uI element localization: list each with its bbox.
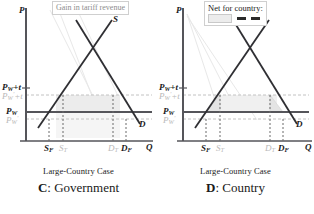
panel-d-y-axis-label: P (176, 6, 182, 15)
panel-d-xtick-dt: DT (265, 144, 275, 154)
panel-d-xtick-sf: SF (201, 144, 210, 154)
panel-d-ytick-pw-prime: PW′ (163, 115, 175, 126)
panel-c: P Q S D PW+t PW′+t PW PW′ SF ST DT DF Ga… (0, 0, 157, 165)
panel-d-ytick-pw-prime-plus-t: PW′+t (159, 91, 180, 102)
panel-c-supply-label: S (113, 15, 118, 24)
panel-c-caption-letter: C (38, 180, 47, 195)
panel-c-y-axis-label: P (19, 6, 25, 15)
panel-d-caption-label: : Country (215, 180, 264, 195)
panel-c-legend-text: Gain in tariff revenue (56, 3, 125, 12)
panel-c-xtick-df: DF (121, 144, 132, 154)
panel-c-xtick-st: ST (59, 144, 67, 154)
legend-swatch-icon (208, 14, 232, 23)
panel-c-demand-label: D (139, 120, 146, 129)
legend-minus-icon (237, 17, 246, 20)
panel-c-legend: Gain in tariff revenue (52, 1, 129, 15)
panel-d: P Q D PW+t PW′+t PW PW′ SF ST DT DF Net … (157, 0, 314, 165)
panel-d-legend-symbols (208, 14, 263, 23)
panel-c-ytick-pw-prime: PW′ (6, 115, 18, 126)
legend-minus-icon (251, 17, 260, 20)
lower-shade-region (56, 112, 120, 138)
panel-d-legend: Net for country: (204, 1, 267, 26)
panel-d-demand-label: D (296, 120, 303, 129)
panel-c-xtick-sf: SF (44, 144, 53, 154)
faint-construction-lines (50, 3, 118, 100)
panel-c-xtick-dt: DT (108, 144, 118, 154)
panel-c-caption-sub: Large-Country Case (0, 166, 157, 176)
panel-c-caption-main: C: Government (0, 180, 157, 196)
panel-d-caption-main: D: Country (157, 180, 314, 196)
net-gain-shade (213, 95, 277, 112)
panel-c-plot (0, 0, 157, 165)
panel-d-xtick-st: ST (216, 144, 224, 154)
panel-d-legend-text: Net for country: (208, 3, 263, 13)
panel-c-caption-label: : Government (47, 180, 119, 195)
tariff-revenue-shade (56, 95, 120, 112)
panel-c-ytick-pw-prime-plus-t: PW′+t (2, 91, 23, 102)
panel-d-caption-sub: Large-Country Case (157, 166, 314, 176)
panel-d-xtick-df: DF (278, 144, 289, 154)
panel-c-x-axis-label: Q (146, 143, 153, 152)
panel-d-x-axis-label: Q (305, 143, 312, 152)
